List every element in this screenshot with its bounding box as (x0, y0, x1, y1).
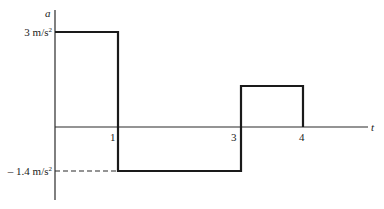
y-tick-value: 3 m/s (24, 26, 48, 38)
y-tick-label-neg-1-4: – 1.4 m/s2 (0, 165, 52, 177)
y-tick-exponent: 2 (49, 26, 53, 34)
y-axis-label: a (45, 7, 51, 19)
acceleration-step-series (55, 32, 303, 171)
chart-canvas (0, 0, 384, 209)
x-axis-label: t (371, 121, 374, 133)
y-tick-value: – 1.4 m/s (8, 165, 49, 177)
x-tick-label-1: 1 (110, 131, 116, 143)
x-tick-label-3: 3 (231, 131, 237, 143)
acceleration-time-chart: a t 3 m/s2 – 1.4 m/s2 1 3 4 (0, 0, 384, 209)
y-tick-label-3: 3 m/s2 (4, 26, 52, 38)
y-tick-exponent: 2 (49, 165, 53, 173)
x-tick-label-4: 4 (299, 131, 305, 143)
